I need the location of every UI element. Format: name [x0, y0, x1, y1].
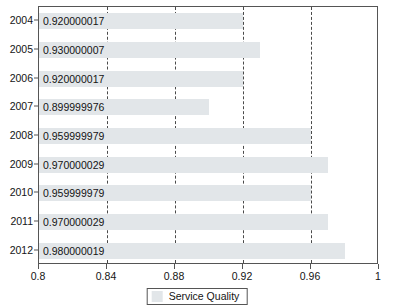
y-tick-label-2004: 2004 [10, 15, 33, 26]
bar-row: 0.970000029 [39, 157, 377, 173]
y-tick-mark-2011 [34, 221, 38, 222]
y-tick-label-2012: 2012 [10, 244, 33, 255]
y-tick-mark-2008 [34, 135, 38, 136]
y-tick-label-2005: 2005 [10, 44, 33, 55]
y-tick-label-2010: 2010 [10, 187, 33, 198]
bar-row: 0.920000017 [39, 71, 377, 87]
bar-row: 0.970000029 [39, 214, 377, 230]
y-tick-mark-2006 [34, 77, 38, 78]
bars-layer: 0.9200000170.9300000070.9200000170.89999… [39, 7, 377, 263]
bar-row: 0.930000007 [39, 42, 377, 58]
legend-swatch-service-quality [152, 291, 163, 302]
bar-row: 0.899999976 [39, 99, 377, 115]
service-quality-bar-chart: 200420052006200720082009201020112012 0.9… [0, 0, 394, 308]
bar-value-label-2011: 0.970000029 [43, 217, 104, 228]
bar-row: 0.959999979 [39, 185, 377, 201]
y-tick-mark-2005 [34, 49, 38, 50]
x-tick-label-0.96: 0.96 [300, 271, 320, 282]
y-tick-mark-2004 [34, 20, 38, 21]
bar-value-label-2007: 0.899999976 [43, 102, 104, 113]
x-tick-mark-0.88 [174, 264, 175, 269]
x-tick-mark-0.92 [242, 264, 243, 269]
bar-row: 0.959999979 [39, 128, 377, 144]
y-tick-mark-2007 [34, 106, 38, 107]
y-tick-label-2009: 2009 [10, 158, 33, 169]
bar-value-label-2004: 0.920000017 [43, 16, 104, 27]
y-tick-mark-2010 [34, 192, 38, 193]
y-tick-label-2007: 2007 [10, 101, 33, 112]
y-tick-mark-2009 [34, 163, 38, 164]
x-tick-mark-1 [378, 264, 379, 269]
y-axis: 200420052006200720082009201020112012 [0, 6, 33, 264]
y-tick-label-2006: 2006 [10, 72, 33, 83]
x-tick-mark-0.96 [310, 264, 311, 269]
bar-value-label-2010: 0.959999979 [43, 188, 104, 199]
bar-value-label-2005: 0.930000007 [43, 45, 104, 56]
x-tick-label-0.84: 0.84 [96, 271, 116, 282]
y-tick-label-2011: 2011 [10, 216, 33, 227]
x-tick-label-1: 1 [375, 271, 381, 282]
y-tick-mark-2012 [34, 249, 38, 250]
plot-area: 0.9200000170.9300000070.9200000170.89999… [38, 6, 378, 264]
bar-row: 0.980000019 [39, 243, 377, 259]
bar-value-label-2006: 0.920000017 [43, 73, 104, 84]
bar-row: 0.920000017 [39, 13, 377, 29]
legend-label-service-quality: Service Quality [169, 291, 240, 302]
x-tick-label-0.8: 0.8 [31, 271, 46, 282]
x-tick-mark-0.84 [106, 264, 107, 269]
x-tick-label-0.92: 0.92 [232, 271, 252, 282]
chart-legend: Service Quality [147, 288, 248, 305]
bar-value-label-2009: 0.970000029 [43, 159, 104, 170]
x-tick-label-0.88: 0.88 [164, 271, 184, 282]
bar-value-label-2012: 0.980000019 [43, 245, 104, 256]
y-tick-label-2008: 2008 [10, 130, 33, 141]
x-tick-mark-0.8 [38, 264, 39, 269]
bar-value-label-2008: 0.959999979 [43, 131, 104, 142]
